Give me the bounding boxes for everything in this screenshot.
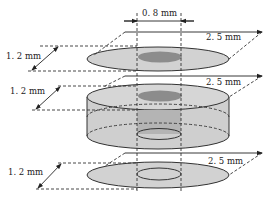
diagram-canvas: 0. 8 mm 2. 5 mm 1. 2 mm 2. 5 mm 1. 2 mm … (0, 0, 272, 202)
top-diameter-label: 2. 5 mm (206, 32, 241, 42)
top-disk (87, 47, 229, 71)
top-disk-hole (138, 52, 182, 63)
cylinder-top-hole (138, 91, 182, 102)
bottom-thickness-label: 1. 2 mm (8, 167, 43, 177)
middle-cylinder (87, 84, 229, 149)
hole-diameter-dimension: 0. 8 mm (124, 8, 194, 21)
top-thickness-label: 1. 2 mm (6, 51, 41, 61)
bottom-diameter-label: 2. 5 mm (208, 156, 243, 166)
middle-thickness-label: 1. 2 mm (10, 86, 45, 96)
hole-diameter-label: 0. 8 mm (142, 8, 177, 18)
middle-diameter-label: 2. 5 mm (206, 77, 241, 87)
layered-disk-diagram: 0. 8 mm 2. 5 mm 1. 2 mm 2. 5 mm 1. 2 mm … (0, 0, 272, 202)
